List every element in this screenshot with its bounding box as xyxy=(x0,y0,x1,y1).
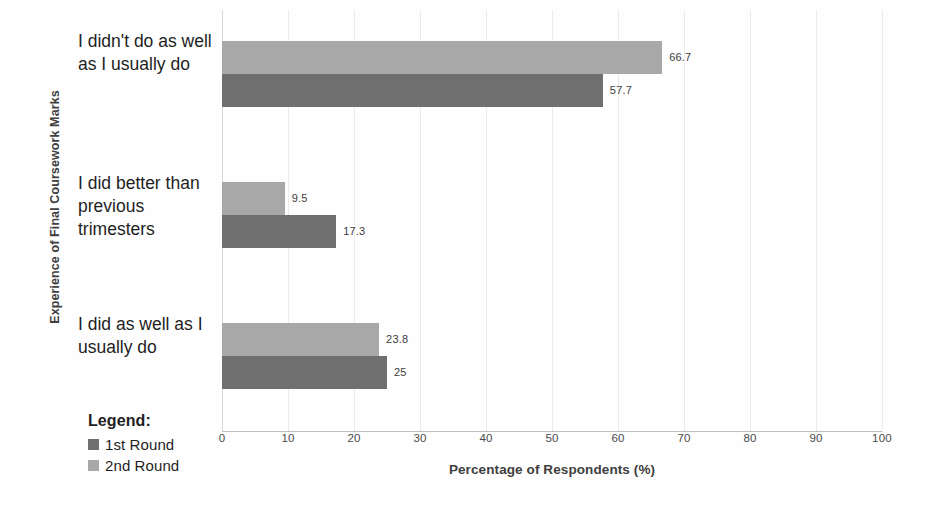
x-tick-label: 100 xyxy=(872,432,892,444)
x-tick-label: 0 xyxy=(219,432,226,444)
category-labels: I didn't do as well as I usually do I di… xyxy=(78,0,218,420)
bar[interactable] xyxy=(222,323,379,356)
category-label-2: I did as well as I usually do xyxy=(78,313,223,359)
x-tick-label: 80 xyxy=(743,432,756,444)
bar[interactable] xyxy=(222,74,603,107)
bar-value-label: 25 xyxy=(394,366,407,378)
bar[interactable] xyxy=(222,41,662,74)
bar-value-label: 57.7 xyxy=(610,84,632,96)
legend-swatch-icon xyxy=(88,460,99,471)
x-tick-label: 30 xyxy=(413,432,426,444)
bar-series-group: 66.757.79.517.323.825 xyxy=(222,10,882,432)
bar[interactable] xyxy=(222,215,336,248)
category-label-0: I didn't do as well as I usually do xyxy=(78,30,223,76)
bar-value-label: 66.7 xyxy=(669,51,691,63)
bar[interactable] xyxy=(222,182,285,215)
category-label-1: I did better than previous trimesters xyxy=(78,172,223,241)
x-tick-label: 10 xyxy=(281,432,294,444)
legend: Legend: 1st Round 2nd Round xyxy=(88,412,218,478)
x-axis-title: Percentage of Respondents (%) xyxy=(222,462,882,477)
legend-swatch-icon xyxy=(88,439,99,450)
bar-chart: Experience of Final Coursework Marks I d… xyxy=(0,0,935,527)
bar[interactable] xyxy=(222,356,387,389)
gridline xyxy=(882,10,883,432)
bar-value-label: 23.8 xyxy=(386,333,408,345)
legend-title: Legend: xyxy=(88,412,218,430)
x-tick-label: 40 xyxy=(479,432,492,444)
plot-area: 66.757.79.517.323.825 xyxy=(222,10,882,432)
x-tick-label: 20 xyxy=(347,432,360,444)
bar-value-label: 9.5 xyxy=(292,192,308,204)
x-tick-label: 60 xyxy=(611,432,624,444)
legend-label: 1st Round xyxy=(105,436,174,453)
legend-label: 2nd Round xyxy=(105,457,179,474)
x-tick-label: 90 xyxy=(809,432,822,444)
legend-item-1st-round[interactable]: 1st Round xyxy=(88,436,218,453)
x-axis-ticks: 0102030405060708090100 xyxy=(222,432,882,450)
y-axis-title: Experience of Final Coursework Marks xyxy=(48,12,62,402)
x-tick-label: 70 xyxy=(677,432,690,444)
bar-value-label: 17.3 xyxy=(343,225,365,237)
legend-item-2nd-round[interactable]: 2nd Round xyxy=(88,457,218,474)
x-tick-label: 50 xyxy=(545,432,558,444)
